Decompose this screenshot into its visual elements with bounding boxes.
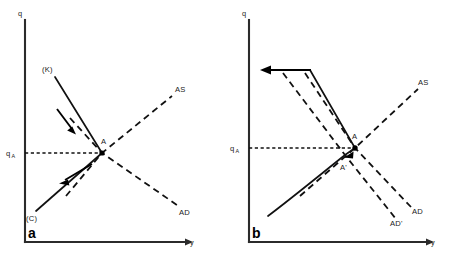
panel-b-kc-curve	[268, 70, 355, 216]
panel-b-as-curve-label: AS	[418, 78, 429, 87]
panel-b-y-axis-label: q	[242, 9, 246, 18]
panel-a-price-level-subscript: A	[12, 153, 16, 159]
panel-a-as-curve	[66, 96, 172, 196]
panel-a-motion-arrow-lower	[59, 164, 92, 186]
panel-a-panel-label: a	[28, 225, 36, 241]
panel-b-panel-label: b	[252, 225, 261, 241]
panel-b-price-level-label: q	[230, 144, 234, 153]
panel-a: q y q A (K) (C) AS AD A a	[6, 9, 194, 247]
panel-b-as-curve	[300, 89, 418, 196]
panel-a-point-a-label: A	[101, 137, 107, 146]
panel-a-y-axis-label: q	[18, 9, 22, 18]
panel-b: q y q A AS AD AD' A A' b	[230, 9, 435, 247]
panel-a-x-axis-label: y	[190, 238, 194, 247]
panel-a-c-segment	[36, 153, 102, 211]
panel-a-k-curve-label: (K)	[42, 65, 53, 74]
panel-b-equilibrium-dot-a	[352, 145, 357, 150]
panel-b-ad-curve-label: AD	[412, 207, 423, 216]
panel-b-price-level-subscript: A	[236, 148, 240, 154]
panel-a-as-curve-label: AS	[175, 85, 186, 94]
panel-b-ad-shifted-curve-label: AD'	[390, 219, 403, 228]
figure-canvas: q y q A (K) (C) AS AD A a	[0, 0, 450, 259]
panel-a-c-curve-label: (C)	[26, 214, 37, 223]
panel-b-x-axis-label: y	[431, 238, 435, 247]
panel-b-point-a-prime-label: A'	[340, 163, 347, 172]
panel-b-shift-arrow	[260, 65, 311, 74]
panel-b-point-a-label: A	[352, 132, 358, 141]
panel-a-equilibrium-dot	[99, 150, 104, 155]
panel-b-ad-shifted-curve	[283, 73, 396, 219]
panel-a-ad-curve-label: AD	[179, 208, 190, 217]
panel-b-ad-curve	[305, 73, 411, 207]
economics-figure: q y q A (K) (C) AS AD A a	[0, 0, 450, 259]
panel-a-ad-curve	[70, 118, 177, 205]
panel-a-price-level-label: q	[6, 149, 10, 158]
